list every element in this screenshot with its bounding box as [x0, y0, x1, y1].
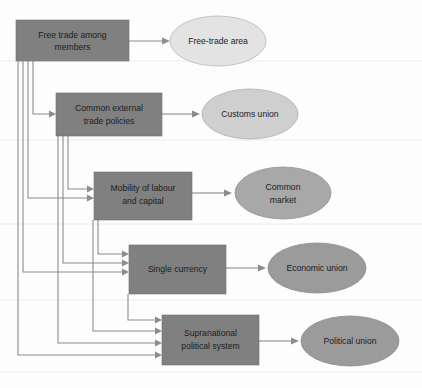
arrowhead [155, 352, 162, 359]
outcome-ellipse-label: Customs union [221, 109, 279, 119]
requirement-box-label-line2: members [55, 42, 91, 52]
arrowhead [87, 186, 94, 193]
arrowhead [162, 38, 170, 45]
requirement-box-label: Free trade among [38, 30, 107, 40]
requirement-box-free-trade: Free trade among members [16, 20, 129, 61]
box-shape [162, 315, 259, 365]
outcome-ellipse-free-trade-area: Free-trade area [170, 16, 266, 66]
box-shape [16, 20, 129, 61]
outcome-ellipse-economic-union: Economic union [268, 243, 366, 293]
outcome-ellipse-label: Economic union [286, 263, 347, 273]
arrowhead [87, 195, 94, 202]
arrowhead [224, 190, 232, 197]
arrowhead [291, 338, 299, 345]
outcome-ellipse-customs-union: Customs union [202, 89, 298, 139]
arrowhead [155, 328, 162, 335]
arrowhead [155, 340, 162, 347]
requirement-box-label: Mobility of labour [111, 183, 176, 193]
outcome-ellipse-label: Common [266, 182, 301, 192]
arrowhead [122, 260, 129, 267]
arrowhead [192, 111, 200, 118]
box-shape [56, 93, 162, 136]
outcome-ellipse-political-union: Political union [301, 316, 399, 366]
requirement-box-mobility: Mobility of labour and capital [94, 172, 192, 220]
requirement-box-label: Single currency [148, 264, 208, 274]
requirement-box-label-line2: political system [181, 341, 239, 351]
requirement-box-label-line2: trade policies [84, 116, 135, 126]
requirement-box-common-external: Common external trade policies [56, 93, 162, 136]
requirement-box-supranational: Supranational political system [162, 315, 259, 365]
outcome-ellipse-label: Free-trade area [188, 36, 248, 46]
requirement-box-label-line2: and capital [122, 196, 164, 206]
integration-stages-diagram: Free trade among members Common external… [0, 0, 422, 388]
requirement-box-label: Supranational [184, 328, 237, 338]
arrowhead [122, 269, 129, 276]
arrowhead [122, 251, 129, 258]
outcome-ellipse-label: Political union [323, 336, 376, 346]
requirement-box-label: Common external [75, 103, 143, 113]
requirement-box-single-currency: Single currency [129, 245, 226, 294]
arrowhead [49, 111, 56, 118]
outcome-ellipse-common-market: Common market [235, 167, 331, 219]
arrowhead [258, 265, 266, 272]
arrowhead [155, 317, 162, 324]
outcome-ellipse-label-line2: market [270, 195, 297, 205]
ellipse-shape [235, 167, 331, 219]
diagram-canvas: Free trade among members Common external… [0, 0, 422, 388]
